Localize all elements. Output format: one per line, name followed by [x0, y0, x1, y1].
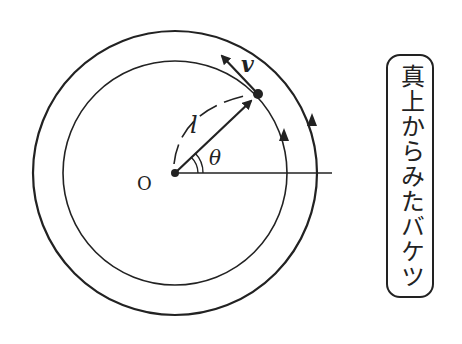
angle-arc-inner: [191, 157, 198, 173]
length-label: l: [190, 111, 198, 139]
origin-label: O: [137, 173, 152, 194]
moving-point-dot: [253, 89, 263, 99]
caption-text: 真上からみたバケツ: [397, 64, 424, 289]
outer-direction-arrow-icon: [307, 113, 317, 126]
caption-box: 真上からみたバケツ: [386, 54, 434, 298]
center-dot: [171, 169, 179, 177]
velocity-label: v: [241, 51, 254, 77]
angle-label: θ: [209, 146, 221, 170]
